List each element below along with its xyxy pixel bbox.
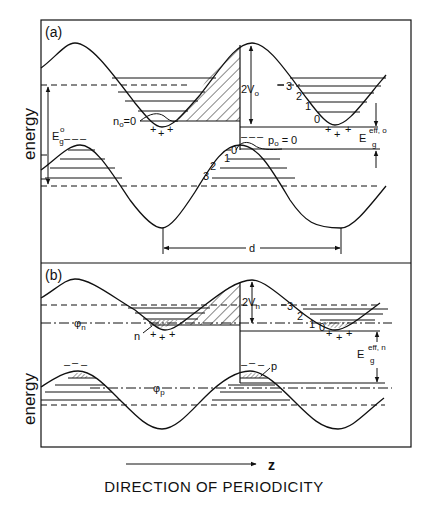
y-axis-label-a: energy [20, 108, 39, 160]
superlattice-band-diagram: (a) [0, 0, 429, 512]
hole-fermi-label-a: po = 0 [268, 134, 297, 148]
svg-text:–: – [241, 358, 248, 370]
negative-charges-left: – – – [64, 132, 87, 144]
svg-text:2: 2 [297, 310, 303, 322]
svg-text:3: 3 [286, 80, 292, 92]
svg-text:+: + [150, 123, 156, 135]
svg-text:+: + [159, 331, 165, 343]
svg-text:–: – [241, 130, 248, 142]
svg-text:3: 3 [287, 300, 293, 312]
negative-charges-right: – – – [241, 130, 264, 142]
eff-gap-label-b: E [357, 348, 364, 360]
svg-text:+: + [326, 327, 332, 339]
figure-caption: DIRECTION OF PERIODICITY [104, 478, 324, 495]
eff-gap-label-a: E [359, 132, 366, 144]
positive-charges-b-left: + + + [150, 328, 175, 343]
amplitude-label-b: 2Vn [242, 296, 260, 311]
svg-text:–: – [249, 356, 256, 368]
valence-subbands-left [45, 150, 122, 178]
eff-gap-sup-a: eff, o [369, 126, 387, 135]
panel-b-label: (b) [45, 267, 62, 283]
positive-charges-left: + + + [150, 123, 173, 139]
svg-text:–: – [64, 358, 71, 370]
z-axis-label: z [268, 457, 275, 473]
negative-charges-b-right: – – – [241, 356, 265, 370]
svg-text:–: – [72, 132, 79, 144]
panel-b: (b) [20, 267, 392, 429]
positive-charges-right: + + + [325, 123, 351, 140]
svg-text:3: 3 [203, 170, 209, 182]
eff-gap-sup-b: eff, n [368, 343, 386, 352]
panel-a-label: (a) [45, 24, 62, 40]
eff-gap-sub-b: g [370, 356, 374, 365]
svg-text:0: 0 [314, 113, 320, 125]
svg-text:–: – [80, 132, 87, 144]
period-label: d [249, 242, 255, 254]
hole-label-b: p [271, 360, 277, 372]
svg-text:2: 2 [296, 90, 302, 102]
svg-text:+: + [167, 123, 173, 135]
svg-text:–: – [258, 358, 265, 370]
svg-text:0: 0 [319, 321, 325, 333]
y-axis-label-b: energy [20, 373, 39, 425]
electron-fermi-label-a: no=0 [113, 115, 136, 129]
svg-text:2: 2 [210, 160, 216, 172]
svg-text:+: + [346, 327, 352, 339]
svg-text:–: – [249, 130, 256, 142]
svg-text:+: + [150, 328, 156, 340]
electron-label-b: n [134, 330, 140, 342]
svg-text:+: + [334, 128, 340, 140]
eff-gap-sub-a: g [372, 140, 376, 149]
svg-text:+: + [158, 127, 164, 139]
svg-text:+: + [336, 331, 342, 343]
amplitude-label-a: 2Vo [241, 83, 259, 98]
svg-text:–: – [64, 132, 71, 144]
svg-text:–: – [81, 358, 88, 370]
svg-text:+: + [345, 123, 351, 135]
svg-text:–: – [72, 356, 79, 368]
svg-text:1: 1 [224, 152, 230, 164]
svg-text:1: 1 [305, 100, 311, 112]
negative-charges-b-left: – – – [64, 356, 88, 370]
quasi-fermi-n-label: φn [74, 317, 86, 332]
quasi-fermi-p-label: φp [153, 382, 165, 397]
panel-a: (a) [20, 24, 387, 254]
svg-text:+: + [325, 123, 331, 135]
conduction-subbands-right [240, 78, 386, 127]
valence-subbands-right [212, 149, 380, 178]
svg-text:1: 1 [309, 318, 315, 330]
svg-text:+: + [169, 328, 175, 340]
svg-text:–: – [257, 130, 264, 142]
svg-text:0: 0 [231, 144, 237, 156]
valence-subband-numbers-a: 0 1 2 3 [203, 144, 237, 182]
